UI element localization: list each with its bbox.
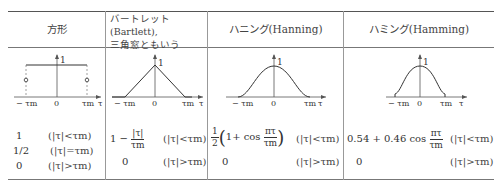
hamming-cond-1: (|τ|<τm) (450, 133, 493, 144)
svg-text:1: 1 (423, 57, 429, 67)
hamming-window-plot: 1 − τm 0 τm τ (344, 52, 494, 107)
svg-text:0: 0 (417, 99, 422, 107)
hanning-cond-2: (|τ|>τm) (296, 156, 339, 167)
hanning-formula-1: 1 2 (1+ cos πτ τm ) (211, 126, 284, 149)
bartlett-formula-1: 1 − |τ| τm (110, 128, 145, 151)
bartlett-cond-1: (|τ|<τm) (163, 133, 206, 144)
svg-text:τ: τ (318, 99, 323, 107)
header-bottom-rule (8, 47, 494, 48)
bartlett-window-plot: 1 − τm 0 τm τ (106, 52, 207, 107)
header-bartlett-line2: 三角窓ともいう (110, 38, 180, 51)
header-bartlett: バートレット(Bartlett), 三角窓ともいう (106, 12, 207, 47)
header-hanning: ハニング(Hanning) (208, 12, 343, 47)
svg-text:0: 0 (54, 99, 59, 107)
svg-text:τm: τm (182, 99, 194, 107)
hanning-cond-1: (|τ|<τm) (296, 133, 339, 144)
bartlett-formula-2: 0 (122, 156, 128, 167)
svg-text:τ: τ (459, 99, 464, 107)
rect-cond-3: (|τ|>τm) (48, 160, 91, 171)
svg-text:τm: τm (440, 99, 452, 107)
rect-formula-1: 1 (16, 130, 22, 141)
rect-formula-2: 1/2 (13, 145, 29, 156)
header-hamming: ハミング(Hamming) (344, 12, 494, 47)
header-bartlett-line1: バートレット(Bartlett), (110, 12, 207, 38)
header-hanning-label: ハニング(Hanning) (229, 23, 323, 36)
bartlett-cond-2: (|τ|>τm) (163, 156, 206, 167)
svg-text:− τm: − τm (114, 99, 136, 107)
hamming-formula-1: 0.54 + 0.46 cos πτ τm (347, 128, 443, 151)
svg-text:0: 0 (152, 99, 157, 107)
hamming-cond-2: (|τ|>τm) (450, 156, 493, 167)
svg-text:− τm: − τm (388, 99, 410, 107)
rect-formula-3: 0 (16, 160, 22, 171)
hanning-formula-2: 0 (222, 156, 228, 167)
fraction: |τ| τm (131, 128, 145, 151)
header-rectangular-label: 方形 (47, 23, 67, 36)
rect-cond-1: (|τ|<τm) (48, 130, 91, 141)
svg-text:τ: τ (98, 99, 103, 107)
svg-text:− τm: − τm (16, 99, 38, 107)
svg-text:τ: τ (199, 99, 204, 107)
rect-cond-2: (|τ|=τm) (50, 145, 93, 156)
svg-text:1: 1 (277, 57, 283, 67)
table-bottom-rule (8, 179, 494, 180)
svg-text:− τm: − τm (232, 99, 254, 107)
hamming-formula-2: 0 (356, 156, 362, 167)
hanning-window-plot: 1 − τm 0 τm τ (208, 52, 343, 107)
header-rectangular: 方形 (8, 12, 105, 47)
svg-text:0: 0 (271, 99, 276, 107)
rectangular-window-plot: 1 − τm 0 τm τ (8, 52, 105, 107)
svg-text:τm: τm (304, 99, 316, 107)
svg-text:1: 1 (158, 58, 164, 68)
peak-label: 1 (60, 55, 66, 65)
svg-text:τm: τm (82, 99, 94, 107)
header-hamming-label: ハミング(Hamming) (369, 23, 469, 36)
